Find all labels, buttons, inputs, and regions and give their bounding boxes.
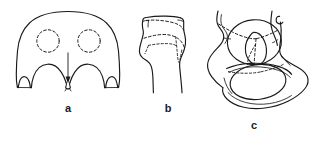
- panel-c-inferior-ramus-line: [228, 93, 291, 105]
- panel-b-lateral-corner-step: [178, 20, 184, 22]
- panel-a-outer-contour-right: [68, 12, 120, 88]
- panel-b-drawing: [139, 16, 185, 93]
- panel-c-drawing: [208, 11, 309, 109]
- panel-label-b: b: [158, 103, 178, 114]
- panel-b-outline-left: [139, 17, 153, 92]
- panel-b-plateau-fracture-line: [147, 20, 184, 30]
- panel-b-plateau-top: [147, 16, 181, 18]
- panel-a-right-foramen-dashed-circle: [78, 30, 100, 52]
- panel-a-left-foramen-dashed-circle: [37, 30, 59, 52]
- panel-a-notch-tail-right: [70, 89, 71, 91]
- panel-c-obturator-foramen: [228, 61, 288, 102]
- panel-label-a: a: [58, 103, 78, 114]
- panel-a-notch-tail-left: [65, 89, 66, 91]
- panel-c-descending-column-line: [254, 39, 256, 65]
- panel-a-outer-contour: [16, 12, 68, 88]
- panel-c-left-rim-fracture-line: [228, 72, 261, 74]
- panel-label-c: c: [244, 120, 264, 131]
- panel-b-medial-fracture-tick: [145, 46, 148, 54]
- panel-c-anterior-superior-spine-hook: [276, 16, 283, 24]
- panel-b-fragment-split-line: [176, 37, 179, 63]
- figure-container: a b c: [0, 0, 327, 145]
- panel-b-fragment-lower-boundary: [149, 44, 177, 46]
- panel-c-anterior-column-fracture-line: [219, 24, 257, 39]
- panel-a-drawing: [16, 12, 119, 92]
- panel-b-condylar-fracture-arc: [144, 35, 185, 49]
- anatomical-line-drawing: [0, 0, 327, 145]
- panel-b-medial-notch: [148, 20, 149, 27]
